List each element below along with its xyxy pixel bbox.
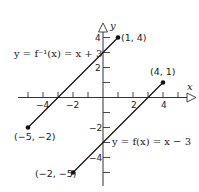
- endpoint-dot: [116, 35, 121, 40]
- endpoint-dot: [161, 80, 166, 85]
- point-label: (4, 1): [150, 66, 176, 77]
- y-tick-label: −2: [89, 123, 102, 133]
- inverse-function-label: y = f⁻¹(x) = x + 3: [13, 48, 102, 59]
- point-label: (1, 4): [121, 32, 147, 43]
- y-axis-label: y: [109, 20, 116, 31]
- y-ticks: [103, 38, 110, 173]
- function-graph: x y −4 −2 2 4 4 2 −2 −4 (: [0, 0, 199, 192]
- x-tick-label: 4: [161, 100, 167, 110]
- y-tick-label: 2: [95, 63, 101, 73]
- y-tick-label: 4: [95, 33, 101, 43]
- x-tick-label: −2: [66, 100, 79, 110]
- x-tick-label: 2: [131, 100, 137, 110]
- y-axis-arrow-icon: [99, 23, 108, 32]
- endpoint-dot: [26, 125, 31, 130]
- point-label: (−2, −5): [35, 168, 76, 179]
- x-axis-label: x: [187, 81, 193, 92]
- point-label: (−5, −2): [14, 131, 55, 142]
- function-label: y = f(x) = x − 3: [111, 136, 191, 147]
- x-axis-arrow-icon: [187, 93, 196, 102]
